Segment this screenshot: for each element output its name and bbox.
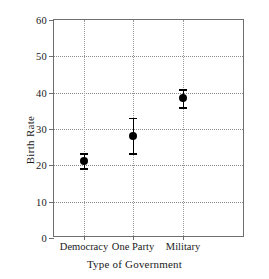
y-tick-60: [49, 20, 54, 21]
marker-dot: [80, 157, 88, 165]
y-tick-20: [49, 165, 54, 166]
x-tick-label-military: Military: [166, 241, 200, 252]
gridline-y-50: [54, 56, 243, 57]
error-bar-cap-upper: [129, 118, 137, 120]
y-axis-title-label: Birth Rate: [24, 115, 36, 164]
x-tick-1: [133, 236, 134, 240]
y-tick-label-60: 60: [36, 15, 47, 26]
x-tick-label-one-party: One Party: [112, 241, 154, 252]
y-axis-title: Birth Rate: [6, 0, 55, 279]
y-tick-30: [49, 129, 54, 130]
gridline-x-democracy: [84, 20, 85, 236]
error-bar-cap-upper: [179, 89, 187, 91]
y-tick-label-0: 0: [42, 233, 47, 244]
y-tick-40: [49, 93, 54, 94]
y-tick-label-50: 50: [36, 51, 47, 62]
x-tick-label-democracy: Democracy: [60, 241, 108, 252]
y-tick-label-40: 40: [36, 87, 47, 98]
x-tick-2: [183, 236, 184, 240]
y-tick-label-30: 30: [36, 124, 47, 135]
gridline-x-military: [183, 20, 184, 236]
y-tick-10: [49, 202, 54, 203]
gridline-y-30: [54, 129, 243, 130]
marker-dot: [129, 132, 137, 140]
x-axis-title-label: Type of Government: [87, 258, 182, 270]
error-bar-cap-lower: [129, 153, 137, 155]
error-bar-cap-lower: [179, 107, 187, 109]
error-bar-cap-lower: [80, 168, 88, 170]
error-bar-cap-upper: [80, 153, 88, 155]
x-tick-0: [84, 236, 85, 240]
plot-area: 0102030405060 DemocracyOne PartyMilitary: [53, 19, 244, 237]
gridline-y-10: [54, 202, 243, 203]
marker-dot: [179, 94, 187, 102]
y-tick-label-10: 10: [36, 196, 47, 207]
gridline-y-40: [54, 93, 243, 94]
y-tick-label-20: 20: [36, 160, 47, 171]
birth-rate-error-bar-chart: Birth Rate 0102030405060 DemocracyOne Pa…: [0, 0, 269, 279]
y-tick-0: [49, 238, 54, 239]
x-axis-title: Type of Government: [0, 258, 269, 270]
gridline-y-20: [54, 165, 243, 166]
y-tick-50: [49, 56, 54, 57]
